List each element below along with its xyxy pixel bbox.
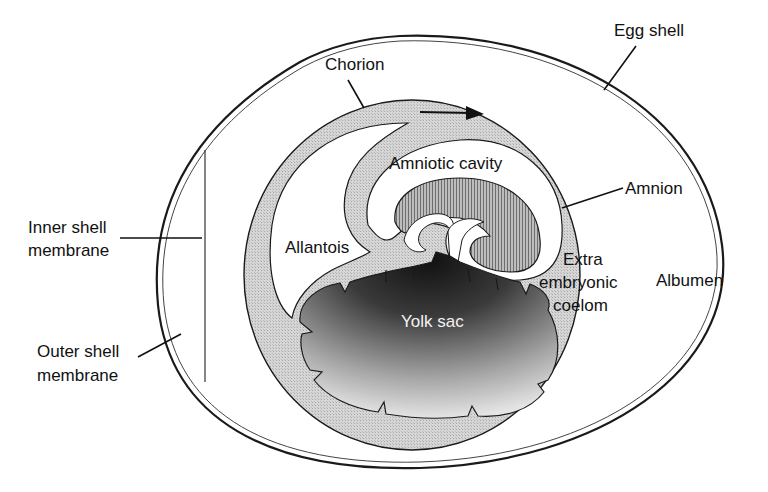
label-extra-embryonic-coelom-3: coelom [553, 295, 608, 316]
label-egg-shell: Egg shell [614, 20, 684, 41]
label-albumen: Albumen [656, 270, 723, 291]
label-outer-shell-membrane-1: Outer shell [37, 341, 119, 362]
label-extra-embryonic-coelom-1: Extra [563, 249, 603, 270]
label-amnion: Amnion [625, 178, 683, 199]
label-inner-shell-membrane-2: membrane [28, 240, 109, 261]
label-outer-shell-membrane-2: membrane [37, 365, 118, 386]
egg-shell-leader [604, 46, 636, 90]
label-extra-embryonic-coelom-2: embryonic [539, 272, 617, 293]
label-chorion: Chorion [325, 54, 385, 75]
label-amniotic-cavity: Amniotic cavity [389, 153, 502, 174]
label-yolk-sac: Yolk sac [401, 311, 464, 332]
label-inner-shell-membrane-1: Inner shell [28, 217, 106, 238]
amniotic-egg-diagram: Egg shell Chorion Amniotic cavity Amnion… [0, 0, 768, 492]
label-allantois: Allantois [285, 237, 349, 258]
